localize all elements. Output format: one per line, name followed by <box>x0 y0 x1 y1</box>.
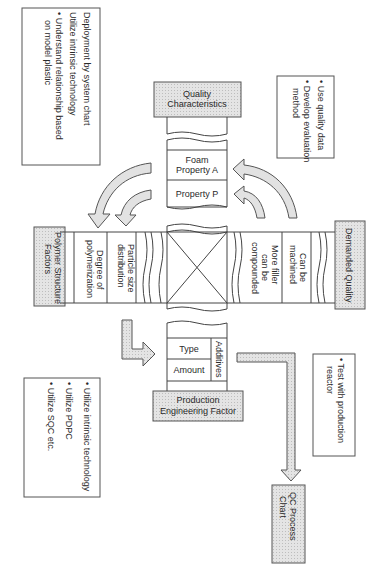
svg-text:• Develop evaluation: • Develop evaluation <box>302 80 312 162</box>
svg-text:Production: Production <box>176 395 219 405</box>
svg-text:Polymer Structure: Polymer Structure <box>53 232 63 304</box>
svg-text:Demanded Quality: Demanded Quality <box>344 228 354 303</box>
svg-text:Characteristics: Characteristics <box>167 99 227 109</box>
svg-text:Engineering Factor: Engineering Factor <box>160 406 236 416</box>
note-top-left-1: Deployment by system chart <box>82 12 92 126</box>
svg-text:machined: machined <box>288 245 298 284</box>
svg-text:Degree of: Degree of <box>95 250 105 290</box>
left-row-item-particle-size: Particle size distribution <box>116 244 136 293</box>
top-column <box>167 117 227 234</box>
header-production-engineering-factor: Production Engineering Factor <box>153 391 243 421</box>
svg-text:on model plastic: on model plastic <box>43 20 53 86</box>
svg-text:Particle size: Particle size <box>126 244 136 293</box>
svg-text:Chart: Chart <box>278 496 288 519</box>
svg-text:Additives: Additives <box>214 341 224 378</box>
svg-text:Amount: Amount <box>173 365 205 375</box>
svg-text:• Utilize PDPC: • Utilize PDPC <box>64 382 74 440</box>
top-column-item-property-p: Property P <box>176 189 219 199</box>
svg-text:distribution: distribution <box>116 244 126 288</box>
top-column-item-foam-property-a: Foam Property A <box>176 155 218 175</box>
note-box-top-right: • Use quality data • Develop evaluation … <box>277 76 334 162</box>
svg-text:• Understand relationship base: • Understand relationship based <box>54 12 64 140</box>
svg-text:polymerization: polymerization <box>85 240 95 298</box>
svg-text:Factors: Factors <box>43 244 53 275</box>
svg-text:Quality: Quality <box>183 89 212 99</box>
svg-text:More filler: More filler <box>270 245 280 285</box>
note-box-bottom-left: • Utilize intrinsic technology • Utilize… <box>24 378 100 497</box>
header-qc-process-chart: QC Process Chart <box>272 485 305 563</box>
note-box-bottom-right: • Test with production reactor <box>313 354 355 456</box>
right-row-item-can-be-machined: Can be machined <box>288 245 308 284</box>
bottom-column-item-type: Type <box>179 344 199 354</box>
arrow-left-to-bottom <box>122 320 155 366</box>
svg-text:• Utilize intrinsic technology: • Utilize intrinsic technology <box>82 382 92 492</box>
note-top-left-2: Utilize intrinsic technology <box>68 12 78 116</box>
svg-text:• Test with production: • Test with production <box>336 358 346 443</box>
right-row-item-more-filler: More filler can be compounded <box>250 242 280 294</box>
svg-text:reactor: reactor <box>325 366 335 394</box>
bottom-column-group-additives: Additives <box>214 341 224 378</box>
svg-text:compounded: compounded <box>250 242 260 294</box>
svg-text:Property A: Property A <box>176 165 218 175</box>
svg-text:Foam: Foam <box>185 155 208 165</box>
svg-text:method: method <box>291 88 301 118</box>
svg-text:• Utilize SQC etc.: • Utilize SQC etc. <box>46 382 56 451</box>
svg-text:• Use quality data: • Use quality data <box>316 80 326 150</box>
header-polymer-structure-factors: Polymer Structure Factors <box>34 227 65 306</box>
left-row-item-degree-of-polymerization: Degree of polymerization <box>85 240 105 298</box>
svg-text:QC Process: QC Process <box>288 492 298 541</box>
arrow-bottom-to-qc-process-chart <box>237 353 301 481</box>
svg-text:Property P: Property P <box>176 189 219 199</box>
bottom-column-item-amount: Amount <box>173 365 205 375</box>
note-box-top-left: Deployment by system chart Utilize intri… <box>22 8 100 165</box>
header-demanded-quality: Demanded Quality <box>335 221 365 309</box>
svg-text:Type: Type <box>179 344 199 354</box>
quality-deployment-diagram: Deployment by system chart Utilize intri… <box>0 0 376 573</box>
svg-text:Can be: Can be <box>298 253 308 282</box>
arrow-small-right-to-top <box>234 186 265 218</box>
arrow-small-top-to-left <box>115 190 151 226</box>
svg-text:can be: can be <box>260 254 270 281</box>
header-quality-characteristics: Quality Characteristics <box>154 82 241 117</box>
